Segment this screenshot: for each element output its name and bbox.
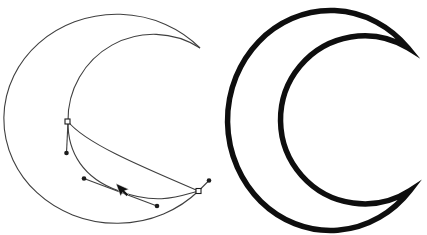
crescent-path-editing-view xyxy=(4,14,211,223)
bezier-handle-line-top xyxy=(67,122,69,154)
crescent-outer-arc-path[interactable] xyxy=(4,14,200,223)
edited-segment-lower-curve[interactable] xyxy=(68,122,199,199)
edited-segment-upper-curve[interactable] xyxy=(68,122,199,192)
anchor-node-right-cusp[interactable] xyxy=(196,189,201,194)
handle-end-dot-lower-left[interactable] xyxy=(64,151,69,156)
handle-end-dot-mid-left[interactable] xyxy=(82,176,87,181)
handle-end-dot-far-right[interactable] xyxy=(207,178,212,183)
handle-end-dot-mid-right[interactable] xyxy=(155,204,160,209)
canvas xyxy=(0,0,427,235)
final-crescent-artwork xyxy=(228,11,410,231)
final-crescent-path xyxy=(228,11,410,231)
crescent-inner-arc-path[interactable] xyxy=(68,34,200,121)
anchor-node-left[interactable] xyxy=(65,119,70,124)
drawing-svg xyxy=(0,0,427,235)
